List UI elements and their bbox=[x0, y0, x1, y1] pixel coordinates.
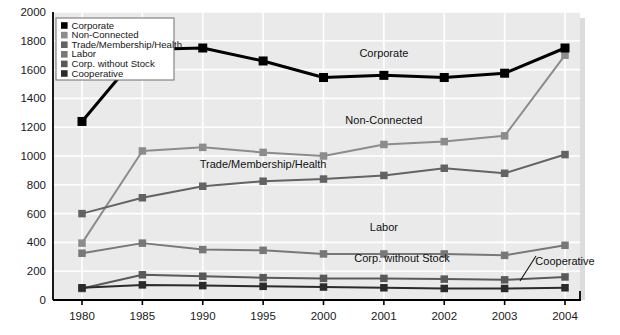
chart-canvas: 0200400600800100012001400160018002000198… bbox=[0, 0, 620, 335]
x-axis-tick-label: 2004 bbox=[552, 310, 578, 322]
data-point-marker bbox=[320, 250, 328, 257]
data-point-marker bbox=[501, 170, 509, 178]
data-point-marker bbox=[319, 73, 328, 82]
legend-swatch bbox=[61, 22, 68, 29]
data-point-marker bbox=[501, 252, 509, 259]
legend-swatch bbox=[61, 61, 68, 68]
data-point-marker bbox=[139, 194, 147, 202]
data-point-marker bbox=[380, 141, 388, 149]
data-point-marker bbox=[501, 285, 509, 293]
y-axis-tick-label: 1400 bbox=[20, 92, 46, 104]
series-annotation-label: Trade/Membership/Health bbox=[200, 158, 327, 170]
legend-swatch bbox=[61, 32, 68, 39]
data-point-marker bbox=[320, 175, 328, 183]
data-point-marker bbox=[379, 71, 388, 80]
line-chart: 0200400600800100012001400160018002000198… bbox=[0, 0, 620, 335]
x-axis-tick-label: 1990 bbox=[190, 310, 216, 322]
data-point-marker bbox=[259, 283, 267, 291]
data-point-marker bbox=[320, 283, 328, 291]
data-point-marker bbox=[561, 284, 569, 292]
x-axis-tick-label: 1980 bbox=[69, 310, 95, 322]
y-axis-tick-label: 1800 bbox=[20, 35, 46, 47]
x-axis-tick-label: 2000 bbox=[311, 310, 337, 322]
series-annotation-label: Corp. without Stock bbox=[354, 252, 450, 264]
data-point-marker bbox=[78, 284, 86, 292]
x-axis-tick-label: 2001 bbox=[371, 310, 397, 322]
y-axis-tick-label: 1600 bbox=[20, 64, 46, 76]
data-point-marker bbox=[139, 147, 147, 155]
data-point-marker bbox=[561, 242, 569, 250]
series-annotation-label: Non-Connected bbox=[345, 114, 422, 126]
y-axis-tick-label: 400 bbox=[27, 236, 46, 248]
y-axis-tick-label: 600 bbox=[27, 208, 46, 220]
data-point-marker bbox=[320, 275, 328, 283]
data-point-marker bbox=[259, 177, 267, 185]
series-annotation-label: Labor bbox=[370, 221, 398, 233]
data-point-marker bbox=[259, 56, 268, 65]
y-axis-tick-label: 1200 bbox=[20, 121, 46, 133]
x-axis-tick-label: 1995 bbox=[250, 310, 276, 322]
y-axis-tick-label: 2000 bbox=[20, 6, 46, 18]
data-point-marker bbox=[199, 272, 207, 280]
data-point-marker bbox=[561, 51, 569, 59]
series-annotation-label: Corporate bbox=[359, 47, 408, 59]
data-point-marker bbox=[199, 144, 207, 152]
series-annotation-label: Cooperative bbox=[535, 255, 594, 267]
data-point-marker bbox=[441, 138, 449, 146]
legend: CorporateNon-ConnectedTrade/Membership/H… bbox=[56, 18, 182, 80]
data-point-marker bbox=[561, 44, 570, 53]
x-axis-tick-label: 2003 bbox=[492, 310, 518, 322]
y-axis-tick-label: 800 bbox=[27, 179, 46, 191]
data-point-marker bbox=[380, 275, 388, 283]
x-axis-tick-label: 2002 bbox=[431, 310, 457, 322]
data-point-marker bbox=[259, 149, 267, 157]
data-point-marker bbox=[78, 117, 87, 126]
data-point-marker bbox=[441, 275, 449, 283]
data-point-marker bbox=[139, 271, 147, 279]
data-point-marker bbox=[199, 182, 207, 190]
data-point-marker bbox=[199, 246, 207, 254]
data-point-marker bbox=[139, 239, 147, 247]
data-point-marker bbox=[380, 284, 388, 292]
legend-swatch bbox=[61, 41, 68, 48]
legend-swatch bbox=[61, 70, 68, 77]
data-point-marker bbox=[199, 282, 207, 290]
data-point-marker bbox=[380, 172, 388, 180]
data-point-marker bbox=[440, 73, 449, 82]
data-point-marker bbox=[259, 247, 267, 255]
data-point-marker bbox=[441, 285, 449, 293]
data-point-marker bbox=[198, 44, 207, 53]
legend-item-label: Cooperative bbox=[72, 68, 124, 79]
data-point-marker bbox=[259, 274, 267, 282]
y-axis-tick-label: 0 bbox=[40, 294, 46, 306]
data-point-marker bbox=[78, 249, 86, 257]
x-axis-tick-label: 1985 bbox=[130, 310, 156, 322]
data-point-marker bbox=[501, 132, 509, 140]
data-point-marker bbox=[78, 239, 86, 247]
y-axis-tick-label: 200 bbox=[27, 265, 46, 277]
data-point-marker bbox=[561, 151, 569, 159]
y-axis-tick-label: 1000 bbox=[20, 150, 46, 162]
legend-swatch bbox=[61, 51, 68, 58]
data-point-marker bbox=[500, 69, 509, 78]
data-point-marker bbox=[139, 281, 147, 289]
data-point-marker bbox=[501, 276, 509, 284]
data-point-marker bbox=[441, 164, 449, 172]
data-point-marker bbox=[78, 210, 86, 218]
data-point-marker bbox=[561, 273, 569, 281]
